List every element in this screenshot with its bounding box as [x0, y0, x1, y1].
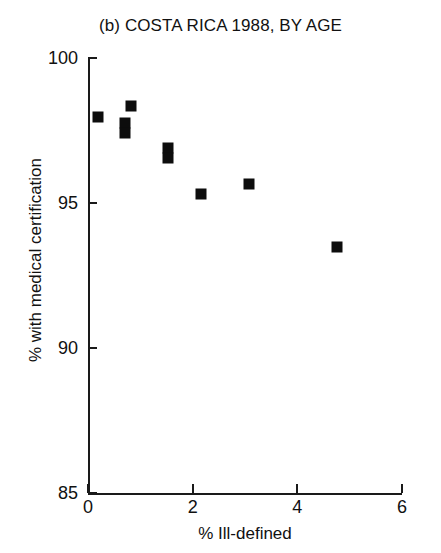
y-tick-95: [88, 202, 97, 204]
y-axis-title: % with medical certification: [26, 110, 46, 410]
data-point: [92, 112, 103, 123]
y-tick-label-100: 100: [32, 49, 78, 67]
x-tick-0: [87, 484, 89, 493]
data-point: [195, 189, 206, 200]
x-tick-label-6: 6: [382, 498, 422, 516]
y-tick-85: [88, 492, 97, 494]
x-axis-line: [88, 493, 402, 495]
chart-title: (b) COSTA RICA 1988, BY AGE: [0, 16, 441, 36]
y-tick-90: [88, 347, 97, 349]
data-point: [331, 241, 342, 252]
y-tick-label-90: 90: [32, 339, 78, 357]
y-tick-label-95: 95: [32, 194, 78, 212]
x-axis-title: % Ill-defined: [88, 524, 402, 544]
x-tick-label-0: 0: [68, 498, 108, 516]
x-tick-6: [401, 484, 403, 493]
y-axis-line: [88, 58, 90, 495]
data-point: [163, 153, 174, 164]
y-tick-100: [88, 57, 97, 59]
x-tick-4: [296, 484, 298, 493]
x-tick-label-2: 2: [173, 498, 213, 516]
x-tick-2: [192, 484, 194, 493]
data-point: [119, 128, 130, 139]
data-point: [244, 179, 255, 190]
scatter-plot-figure: (b) COSTA RICA 1988, BY AGE % with medic…: [0, 0, 441, 553]
data-point: [125, 100, 136, 111]
x-tick-label-4: 4: [277, 498, 317, 516]
